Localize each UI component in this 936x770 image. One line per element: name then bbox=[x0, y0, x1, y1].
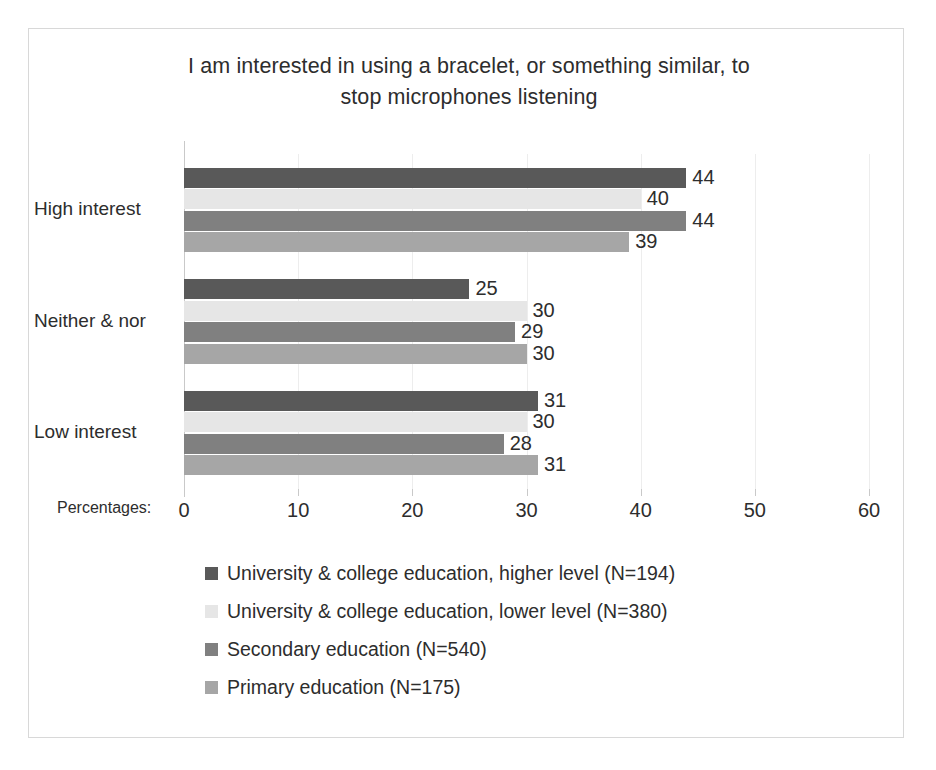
legend-item[interactable]: Primary education (N=175) bbox=[205, 668, 805, 706]
chart-title: I am interested in using a bracelet, or … bbox=[89, 51, 849, 113]
axis-tick bbox=[641, 489, 642, 496]
legend-swatch-icon bbox=[205, 605, 218, 618]
bar[interactable] bbox=[184, 211, 686, 231]
axis-tick bbox=[184, 489, 185, 496]
bar-row: 25 bbox=[184, 279, 869, 299]
bar[interactable] bbox=[184, 189, 641, 209]
bar[interactable] bbox=[184, 322, 515, 342]
bar[interactable] bbox=[184, 232, 629, 252]
plot-area: 444044392530293031302831 bbox=[184, 154, 869, 489]
bar-value-label: 30 bbox=[527, 299, 555, 322]
legend-swatch-icon bbox=[205, 643, 218, 656]
bar-row: 30 bbox=[184, 344, 869, 364]
chart-legend: University & college education, higher l… bbox=[205, 554, 805, 706]
bar-value-label: 29 bbox=[515, 320, 543, 343]
gridline bbox=[869, 154, 870, 489]
bar-row: 39 bbox=[184, 232, 869, 252]
bar-value-label: 30 bbox=[527, 342, 555, 365]
bar-row: 28 bbox=[184, 434, 869, 454]
bar-value-label: 28 bbox=[504, 432, 532, 455]
bar-value-label: 39 bbox=[629, 230, 657, 253]
bar-group: 25302930 bbox=[184, 279, 869, 364]
bar[interactable] bbox=[184, 391, 538, 411]
chart-container: I am interested in using a bracelet, or … bbox=[28, 28, 904, 738]
legend-label: Primary education (N=175) bbox=[227, 676, 461, 699]
bar-row: 40 bbox=[184, 189, 869, 209]
bar-value-label: 30 bbox=[527, 410, 555, 433]
axis-tick-label: 40 bbox=[630, 499, 652, 522]
legend-item[interactable]: University & college education, lower le… bbox=[205, 592, 805, 630]
axis-tick-label: 30 bbox=[515, 499, 537, 522]
legend-swatch-icon bbox=[205, 567, 218, 580]
value-axis-caption: Percentages: bbox=[57, 499, 151, 517]
bar-value-label: 25 bbox=[469, 277, 497, 300]
axis-tick bbox=[412, 489, 413, 496]
bar[interactable] bbox=[184, 344, 527, 364]
axis-tick-label: 60 bbox=[858, 499, 880, 522]
legend-label: University & college education, higher l… bbox=[227, 562, 675, 585]
axis-tick bbox=[298, 489, 299, 496]
axis-tick bbox=[869, 489, 870, 496]
axis-tick-label: 20 bbox=[401, 499, 423, 522]
bar-row: 31 bbox=[184, 391, 869, 411]
bar-group: 44404439 bbox=[184, 168, 869, 253]
category-label: Neither & nor bbox=[34, 310, 184, 332]
chart-title-line-2: stop microphones listening bbox=[89, 82, 849, 113]
legend-label: University & college education, lower le… bbox=[227, 600, 668, 623]
bar[interactable] bbox=[184, 455, 538, 475]
legend-item[interactable]: Secondary education (N=540) bbox=[205, 630, 805, 668]
category-label: High interest bbox=[34, 198, 184, 220]
axis-tick-label: 10 bbox=[287, 499, 309, 522]
value-axis: 0102030405060 bbox=[184, 489, 869, 529]
bar-value-label: 31 bbox=[538, 389, 566, 412]
bar-row: 44 bbox=[184, 211, 869, 231]
bar-group: 31302831 bbox=[184, 391, 869, 476]
bar-row: 30 bbox=[184, 301, 869, 321]
category-label: Low interest bbox=[34, 421, 184, 443]
legend-label: Secondary education (N=540) bbox=[227, 638, 487, 661]
bar-row: 29 bbox=[184, 322, 869, 342]
axis-tick-label: 50 bbox=[744, 499, 766, 522]
axis-tick bbox=[755, 489, 756, 496]
axis-tick-label: 0 bbox=[178, 499, 189, 522]
axis-tick bbox=[527, 489, 528, 496]
bar[interactable] bbox=[184, 412, 527, 432]
bar-row: 44 bbox=[184, 168, 869, 188]
legend-item[interactable]: University & college education, higher l… bbox=[205, 554, 805, 592]
bar-value-label: 40 bbox=[641, 187, 669, 210]
bar-row: 31 bbox=[184, 455, 869, 475]
category-axis-labels: High interestNeither & norLow interest bbox=[44, 154, 184, 489]
bar-row: 30 bbox=[184, 412, 869, 432]
bar-value-label: 31 bbox=[538, 453, 566, 476]
bar-value-label: 44 bbox=[686, 166, 714, 189]
bar[interactable] bbox=[184, 434, 504, 454]
bar[interactable] bbox=[184, 168, 686, 188]
legend-swatch-icon bbox=[205, 681, 218, 694]
chart-title-line-1: I am interested in using a bracelet, or … bbox=[89, 51, 849, 82]
bar-value-label: 44 bbox=[686, 209, 714, 232]
bar[interactable] bbox=[184, 301, 527, 321]
bar[interactable] bbox=[184, 279, 469, 299]
